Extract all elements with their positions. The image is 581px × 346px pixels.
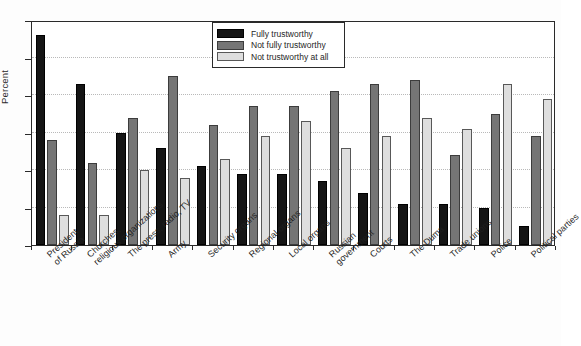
bar xyxy=(47,140,57,245)
legend-swatch-icon-not-fully-trustworthy xyxy=(217,41,244,50)
x-tick-mark-5 xyxy=(233,246,234,250)
legend-item-not-trustworthy-at-all: Not trustworthy at all xyxy=(217,52,339,62)
bar xyxy=(503,84,513,245)
bar xyxy=(36,35,46,245)
x-tick-mark-4 xyxy=(192,246,193,250)
bar xyxy=(261,136,271,245)
bar xyxy=(382,136,392,245)
bar xyxy=(519,226,529,245)
legend-item-not-fully-trustworthy: Not fully trustworthy xyxy=(217,40,339,50)
bar xyxy=(462,129,472,245)
bar xyxy=(301,121,311,245)
legend-label-fully-trustworthy: Fully trustworthy xyxy=(251,29,313,39)
legend-label-not-trustworthy-at-all: Not trustworthy at all xyxy=(251,52,328,62)
gridline-40 xyxy=(32,94,554,95)
bar xyxy=(531,136,541,245)
bar xyxy=(330,91,340,245)
bar xyxy=(209,125,219,245)
bar xyxy=(410,80,420,245)
bar xyxy=(370,84,380,245)
bar xyxy=(398,204,408,245)
legend-swatch-icon-fully-trustworthy xyxy=(217,29,244,38)
legend-swatch-icon-not-trustworthy-at-all xyxy=(217,52,244,61)
legend-item-fully-trustworthy: Fully trustworthy xyxy=(217,29,339,39)
x-tick-mark-0 xyxy=(31,246,32,250)
x-tick-mark-13 xyxy=(555,246,556,250)
x-tick-mark-10 xyxy=(434,246,435,250)
x-tick-mark-11 xyxy=(474,246,475,250)
bar xyxy=(197,166,207,245)
x-tick-mark-12 xyxy=(515,246,516,250)
x-tick-mark-3 xyxy=(152,246,153,250)
bar xyxy=(422,118,432,246)
legend: Fully trustworthy Not fully trustworthy … xyxy=(212,22,345,68)
y-axis-title: Percent xyxy=(0,70,10,104)
x-tick-mark-6 xyxy=(273,246,274,250)
bar xyxy=(543,99,553,245)
x-tick-mark-7 xyxy=(313,246,314,250)
legend-label-not-fully-trustworthy: Not fully trustworthy xyxy=(251,40,326,50)
bar xyxy=(88,163,98,246)
bar xyxy=(450,155,460,245)
x-tick-mark-9 xyxy=(394,246,395,250)
bar xyxy=(76,84,86,245)
